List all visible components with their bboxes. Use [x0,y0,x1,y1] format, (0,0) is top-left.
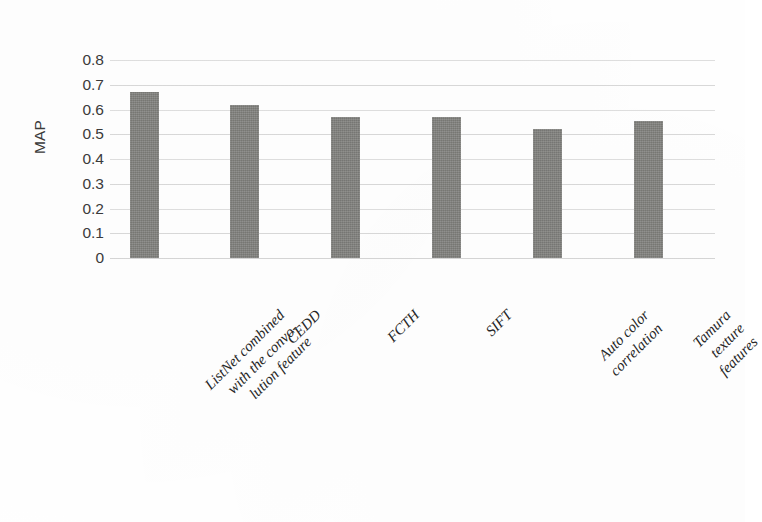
x-axis-tick-label: FCTH [383,306,424,347]
x-axis-tick-label: Auto colorcorrelation [593,306,667,380]
x-axis-tick-label-line: SIFT [481,306,516,341]
x-axis-tick-label: Tamuratexturefeatures [688,306,762,380]
x-axis-tick-label: SIFT [481,306,516,341]
x-axis-tick-label-line: FCTH [383,306,424,347]
